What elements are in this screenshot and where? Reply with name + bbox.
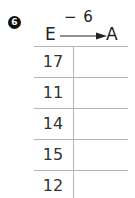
input-value: 11: [34, 78, 72, 108]
table-row: 12: [34, 170, 128, 198]
answer-cell[interactable]: [73, 171, 128, 198]
table-row: 15: [34, 139, 128, 170]
input-value: 14: [34, 109, 72, 139]
table-row: 17: [34, 46, 128, 77]
answer-cell[interactable]: [73, 78, 128, 108]
input-column-label: E: [45, 24, 56, 44]
output-column-label: A: [106, 24, 118, 44]
answer-cell[interactable]: [73, 109, 128, 139]
table-row: 14: [34, 108, 128, 139]
arrow-right-icon: [60, 32, 107, 40]
input-value: 17: [34, 47, 72, 77]
operation-label: − 6: [64, 8, 94, 26]
function-table: 17 11 14 15 12: [34, 46, 128, 198]
answer-cell[interactable]: [73, 140, 128, 170]
input-value: 12: [34, 171, 72, 198]
column-divider: [73, 46, 74, 198]
exercise-number-badge: 6: [8, 16, 21, 29]
table-row: 11: [34, 77, 128, 108]
answer-cell[interactable]: [73, 47, 128, 77]
input-value: 15: [34, 140, 72, 170]
